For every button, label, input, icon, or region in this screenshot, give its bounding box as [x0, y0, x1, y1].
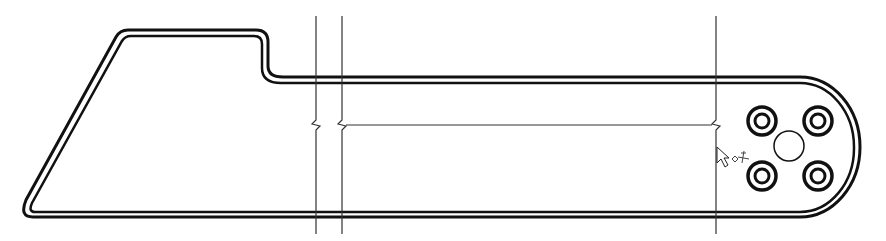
- section-line-1[interactable]: [312, 16, 320, 234]
- section-lines: [312, 16, 720, 234]
- snap-marker-icon: [732, 156, 738, 162]
- section-line-3[interactable]: [712, 16, 720, 234]
- drawing-canvas[interactable]: [0, 0, 886, 241]
- section-line-2[interactable]: [338, 16, 346, 234]
- hole-top-left[interactable]: [748, 107, 776, 135]
- move-glyph-icon: [738, 151, 749, 163]
- part-outline[interactable]: [24, 30, 860, 217]
- center-hole[interactable]: [774, 131, 804, 161]
- outline-outer[interactable]: [24, 30, 860, 217]
- mouse-cursor-icon: [717, 147, 749, 167]
- hole-bottom-right[interactable]: [804, 162, 832, 190]
- hole-top-right[interactable]: [804, 107, 832, 135]
- hole-bottom-left[interactable]: [748, 162, 776, 190]
- mounting-holes: [748, 107, 832, 190]
- arrow-cursor-icon: [717, 147, 729, 167]
- outline-inner[interactable]: [31, 36, 854, 212]
